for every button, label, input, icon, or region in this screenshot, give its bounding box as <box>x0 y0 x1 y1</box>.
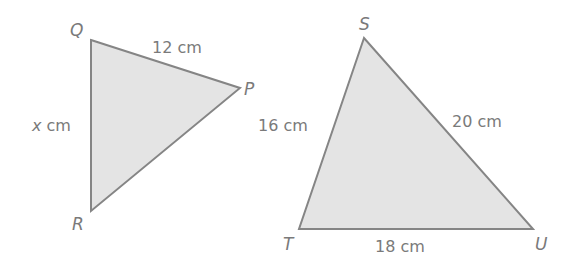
vertex-label-t: T <box>283 234 295 254</box>
vertex-label-p: P <box>244 79 255 99</box>
vertex-label-s: S <box>359 14 370 34</box>
side-label-su: 20 cm <box>452 112 502 131</box>
side-label-qp: 12 cm <box>152 38 202 57</box>
vertex-label-q: Q <box>70 20 83 40</box>
similar-triangles-figure: Q P R 12 cm x cm S T U 16 cm 20 cm 18 cm <box>0 0 572 276</box>
vertex-label-u: U <box>535 234 548 254</box>
triangle-stu: S T U 16 cm 20 cm 18 cm <box>258 14 548 256</box>
side-variable-x: x <box>31 116 42 135</box>
triangle-stu-shape <box>299 38 533 229</box>
vertex-label-r: R <box>72 214 84 234</box>
side-label-qr: x cm <box>31 116 71 135</box>
triangle-pqr: Q P R 12 cm x cm <box>31 20 255 234</box>
triangle-pqr-shape <box>91 40 240 211</box>
side-label-tu: 18 cm <box>375 237 425 256</box>
side-label-st: 16 cm <box>258 116 308 135</box>
side-unit: cm <box>41 116 70 135</box>
